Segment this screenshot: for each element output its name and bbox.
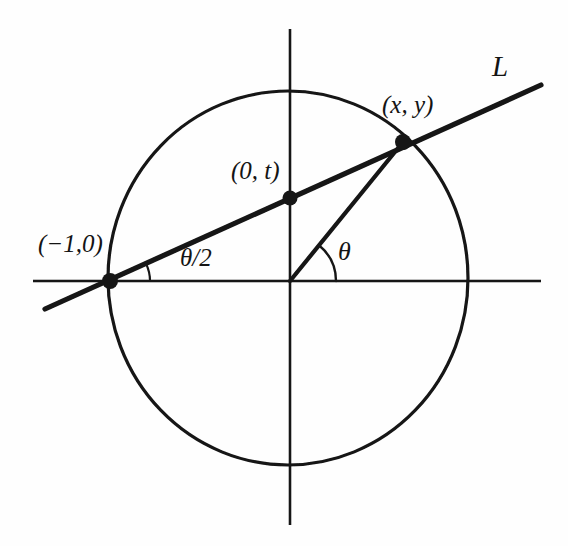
point-marker-left bbox=[102, 273, 118, 289]
point-marker-on-circle bbox=[395, 134, 411, 150]
geometry-figure: (x, y) L (0, t) (−1,0) θ θ/2 bbox=[0, 0, 568, 546]
label-left-point: (−1,0) bbox=[38, 231, 103, 256]
angle-arc-theta-half bbox=[146, 264, 150, 281]
label-line-L: L bbox=[492, 52, 508, 81]
unit-circle bbox=[108, 91, 468, 465]
label-point-on-circle: (x, y) bbox=[382, 92, 433, 117]
label-angle-theta: θ bbox=[338, 239, 351, 265]
point-marker-y-intercept bbox=[283, 191, 298, 206]
label-y-intercept: (0, t) bbox=[231, 158, 280, 183]
label-angle-theta-half: θ/2 bbox=[180, 245, 212, 270]
figure-canvas bbox=[0, 0, 568, 546]
angle-arc-theta bbox=[319, 245, 336, 281]
